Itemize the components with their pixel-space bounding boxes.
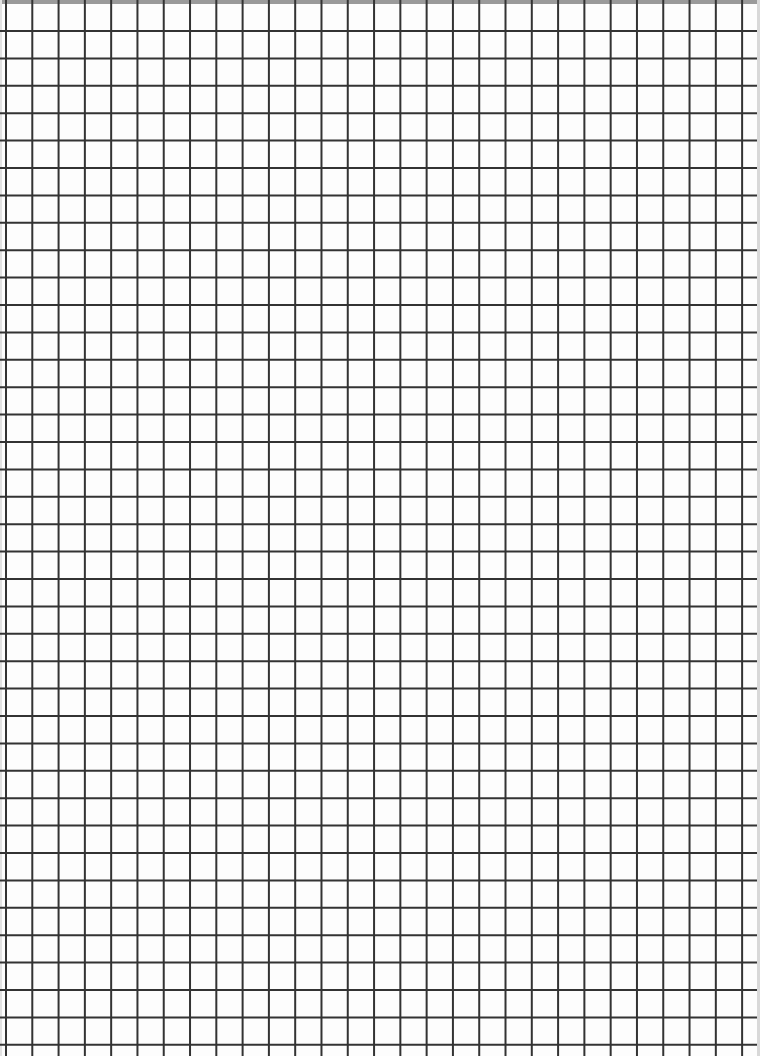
grid-lines [0,0,760,1056]
grid-paper-sheet [0,0,760,1056]
